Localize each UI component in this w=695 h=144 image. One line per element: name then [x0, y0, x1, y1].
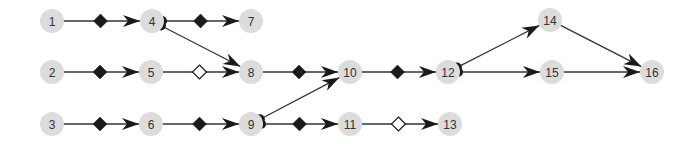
edge-12-to-15: [453, 66, 540, 78]
filled-diamond-icon: [93, 14, 107, 28]
edge-3-to-6: [64, 117, 139, 131]
directed-graph: 14714258101215163691113: [0, 0, 695, 144]
node-12[interactable]: 12: [436, 60, 460, 84]
node-7[interactable]: 7: [239, 9, 263, 33]
node-label: 10: [343, 66, 357, 80]
node-label: 11: [344, 118, 357, 132]
node-label: 13: [443, 118, 457, 132]
edge-9-to-11: [256, 117, 338, 131]
node-label: 15: [545, 66, 559, 80]
edge-9-to-10: [255, 72, 342, 124]
edge-line: [263, 78, 340, 118]
edge-5-to-8: [163, 65, 239, 79]
node-label: 16: [645, 66, 659, 80]
filled-diamond-icon: [194, 14, 208, 28]
node-14[interactable]: 14: [538, 8, 562, 32]
node-label: 12: [441, 66, 455, 80]
open-diamond-icon: [192, 65, 206, 79]
node-15[interactable]: 15: [540, 60, 564, 84]
edge-line: [561, 25, 642, 66]
edge-1-to-4: [64, 14, 140, 28]
node-3[interactable]: 3: [40, 112, 64, 136]
node-label: 8: [248, 66, 255, 80]
filled-diamond-icon: [292, 65, 306, 79]
edge-line: [460, 25, 540, 66]
node-16[interactable]: 16: [640, 60, 664, 84]
node-6[interactable]: 6: [139, 112, 163, 136]
node-9[interactable]: 9: [239, 112, 263, 136]
filled-diamond-icon: [93, 117, 107, 131]
node-1[interactable]: 1: [40, 9, 64, 33]
open-diamond-icon: [391, 117, 405, 131]
node-label: 1: [49, 15, 56, 29]
edge-10-to-12: [362, 65, 436, 79]
edge-2-to-5: [64, 65, 139, 79]
node-5[interactable]: 5: [139, 60, 163, 84]
edge-6-to-9: [163, 117, 239, 131]
node-2[interactable]: 2: [40, 60, 64, 84]
node-label: 14: [543, 14, 557, 28]
edge-14-to-16: [561, 25, 644, 71]
filled-diamond-icon: [391, 65, 405, 79]
node-10[interactable]: 10: [338, 60, 362, 84]
node-label: 2: [49, 66, 56, 80]
node-label: 9: [248, 118, 255, 132]
edge-8-to-10: [263, 65, 338, 79]
edge-15-to-16: [564, 66, 640, 78]
node-13[interactable]: 13: [438, 112, 462, 136]
filled-diamond-icon: [293, 117, 307, 131]
node-label: 5: [148, 66, 155, 80]
node-label: 7: [248, 15, 255, 29]
edge-4-to-8: [156, 21, 243, 72]
filled-diamond-icon: [192, 117, 206, 131]
filled-diamond-icon: [93, 65, 107, 79]
edge-11-to-13: [362, 117, 438, 131]
node-4[interactable]: 4: [140, 9, 164, 33]
edge-4-to-7: [157, 14, 239, 28]
node-label: 3: [49, 118, 56, 132]
edge-line: [164, 27, 241, 67]
node-11[interactable]: 11: [338, 112, 362, 136]
node-label: 6: [148, 118, 155, 132]
node-8[interactable]: 8: [239, 60, 263, 84]
edge-12-to-14: [452, 20, 542, 72]
node-label: 4: [149, 15, 156, 29]
